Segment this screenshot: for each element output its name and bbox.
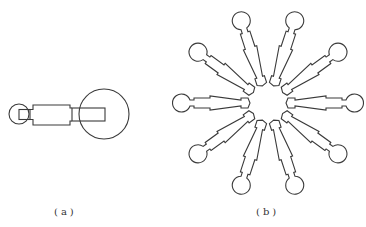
arm xyxy=(286,94,363,112)
arm xyxy=(277,40,350,100)
arm xyxy=(230,117,271,196)
long-bar xyxy=(72,108,105,121)
caption-b: (b) xyxy=(256,206,279,217)
caption-a: (a) xyxy=(54,206,77,217)
arm xyxy=(277,106,350,166)
arm xyxy=(230,9,271,88)
arm xyxy=(173,94,250,112)
diagram-canvas xyxy=(0,0,366,227)
figure-a xyxy=(9,89,129,139)
figure-b xyxy=(173,9,364,196)
arm xyxy=(265,9,306,88)
arm xyxy=(265,117,306,196)
arm xyxy=(185,106,258,166)
body-rect xyxy=(30,105,72,125)
arm xyxy=(185,40,258,100)
large-circle xyxy=(79,89,129,139)
